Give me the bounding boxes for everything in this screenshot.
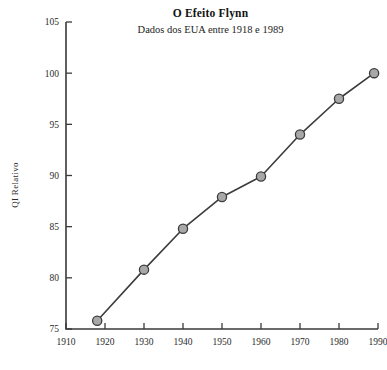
x-tick-label: 1980 bbox=[330, 337, 349, 347]
x-tick-label: 1990 bbox=[369, 337, 387, 347]
data-point bbox=[93, 316, 102, 325]
x-tick-label: 1940 bbox=[174, 337, 193, 347]
y-tick-label: 80 bbox=[50, 273, 60, 283]
data-point bbox=[139, 265, 148, 274]
chart-figure: O Efeito Flynn Dados dos EUA entre 1918 … bbox=[0, 0, 387, 370]
y-tick-label: 75 bbox=[50, 324, 60, 334]
x-tick-label: 1970 bbox=[291, 337, 310, 347]
plot-area: 7580859095100105 19101920193019401950196… bbox=[0, 0, 387, 370]
x-axis-ticks: 191019201930194019501960197019801990 bbox=[57, 323, 387, 347]
data-point bbox=[178, 224, 187, 233]
data-point-markers bbox=[93, 69, 379, 326]
y-axis-ticks: 7580859095100105 bbox=[45, 17, 72, 334]
data-point bbox=[295, 130, 304, 139]
axis-spine bbox=[66, 22, 378, 329]
data-point bbox=[334, 94, 343, 103]
series-line bbox=[97, 73, 374, 321]
y-tick-label: 105 bbox=[45, 17, 60, 27]
x-tick-label: 1910 bbox=[57, 337, 76, 347]
y-tick-label: 85 bbox=[50, 222, 60, 232]
x-tick-label: 1920 bbox=[96, 337, 115, 347]
x-tick-label: 1930 bbox=[135, 337, 154, 347]
data-point bbox=[370, 69, 379, 78]
y-tick-label: 95 bbox=[50, 120, 60, 130]
x-tick-label: 1960 bbox=[252, 337, 271, 347]
data-point bbox=[217, 192, 226, 201]
data-point bbox=[256, 172, 265, 181]
y-tick-label: 100 bbox=[45, 69, 60, 79]
x-tick-label: 1950 bbox=[213, 337, 232, 347]
y-tick-label: 90 bbox=[50, 171, 60, 181]
